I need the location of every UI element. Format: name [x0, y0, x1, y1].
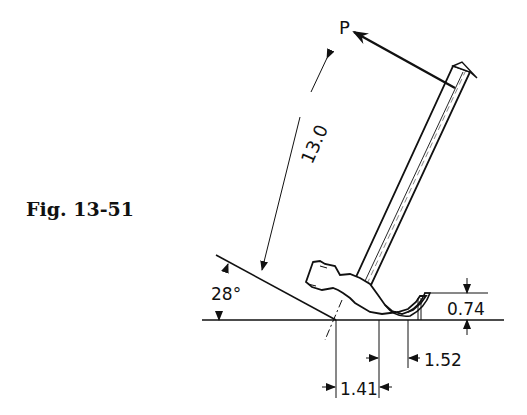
hammer-diagram: P 13.0 28° 0.74 1.52 1.41 [0, 0, 527, 415]
length-label: 13.0 [296, 121, 331, 166]
length-dimension-line [311, 58, 327, 92]
offset-left-label: 1.41 [340, 379, 378, 399]
force-arrow [354, 32, 455, 88]
offset-right-label: 1.52 [424, 350, 462, 370]
hammer-handle [350, 62, 477, 298]
force-label: P [339, 17, 350, 38]
angle-label: 28° [211, 284, 241, 304]
height-label: 0.74 [447, 299, 485, 319]
